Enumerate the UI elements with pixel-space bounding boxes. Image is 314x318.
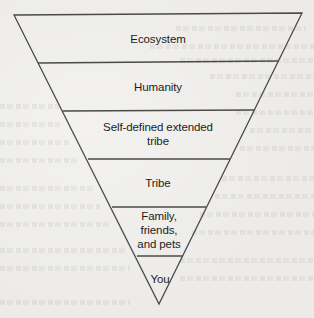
level-you: You [150, 272, 169, 286]
divider-ecosystem-humanity [38, 61, 278, 63]
diagram-canvas: Ecosystem Humanity Self-defined extended… [0, 0, 314, 318]
level-ecosystem: Ecosystem [130, 32, 185, 46]
level-family-friends-pets: Family, friends, and pets [137, 209, 180, 251]
inverted-pyramid [0, 0, 314, 318]
level-self-defined-extended-tribe: Self-defined extended tribe [103, 120, 213, 148]
level-tribe: Tribe [145, 176, 170, 190]
level-humanity: Humanity [134, 80, 182, 94]
divider-humanity-extended-tribe [63, 110, 254, 111]
